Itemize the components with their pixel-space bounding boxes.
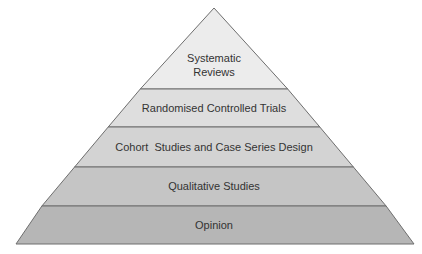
level-1-label-line-2: Reviews: [193, 66, 235, 78]
level-1-label-line-1: Systematic: [187, 52, 241, 64]
evidence-pyramid: Systematic Reviews Randomised Controlled…: [0, 0, 422, 254]
level-4-label: Qualitative Studies: [168, 180, 260, 192]
level-2-label: Randomised Controlled Trials: [142, 102, 287, 114]
level-5-label: Opinion: [195, 219, 233, 231]
level-3-label: Cohort Studies and Case Series Design: [115, 141, 313, 153]
